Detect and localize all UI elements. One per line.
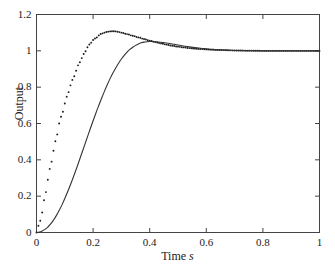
dotted-response-point	[56, 133, 58, 135]
y-tick-label-6: 1.2	[0, 9, 32, 20]
dotted-response-point	[181, 46, 183, 48]
dotted-response-point	[58, 123, 60, 125]
x-axis-label-text: Time	[161, 249, 186, 263]
dotted-response-point	[37, 225, 39, 227]
dotted-response-point	[51, 161, 53, 163]
dotted-response-point	[105, 31, 107, 33]
series-1	[37, 42, 320, 233]
x-tick-label-4: 0.8	[243, 237, 283, 248]
dotted-response-point	[171, 45, 173, 47]
dotted-response-point	[120, 32, 122, 34]
plot-canvas	[0, 0, 335, 270]
dotted-response-point	[45, 191, 47, 193]
dotted-response-point	[170, 45, 172, 47]
dotted-response-point	[113, 30, 115, 32]
dotted-response-point	[115, 30, 117, 32]
dotted-response-point	[139, 37, 141, 39]
dotted-response-point	[43, 199, 45, 201]
dotted-response-point	[39, 220, 41, 222]
dotted-response-point	[126, 33, 128, 35]
chart-figure: Output Time s 00.20.40.60.81 00.20.40.60…	[0, 0, 335, 270]
x-axis-unit: s	[189, 249, 194, 263]
x-tick-label-0: 0	[17, 237, 57, 248]
dotted-response-point	[137, 36, 139, 38]
dotted-response-point	[130, 34, 132, 36]
y-tick-label-2: 0.4	[0, 154, 32, 165]
series-0	[36, 30, 321, 233]
dotted-response-point	[54, 140, 56, 142]
dotted-response-point	[88, 44, 90, 46]
x-tick-label-2: 0.4	[130, 237, 170, 248]
dotted-response-point	[71, 79, 73, 81]
dotted-response-point	[41, 212, 43, 214]
data-series-layer	[36, 30, 321, 233]
dotted-response-point	[47, 179, 49, 181]
dotted-response-point	[75, 70, 77, 72]
x-axis-label: Time s	[36, 249, 319, 264]
dotted-response-point	[94, 38, 96, 40]
dotted-response-point	[145, 38, 147, 40]
dotted-response-point	[79, 61, 81, 63]
dotted-response-point	[111, 30, 113, 32]
dotted-response-point	[100, 33, 102, 35]
dotted-response-point	[186, 47, 188, 49]
dotted-response-point	[92, 39, 94, 41]
dotted-response-point	[66, 96, 68, 98]
y-tick-label-0: 0	[0, 227, 32, 238]
dotted-response-point	[177, 46, 179, 48]
y-tick-label-5: 1	[0, 45, 32, 56]
y-tick-label-4: 0.8	[0, 81, 32, 92]
x-tick-label-5: 1	[300, 237, 335, 248]
dotted-response-point	[60, 116, 62, 118]
dotted-response-point	[128, 34, 130, 36]
dotted-response-point	[83, 53, 85, 55]
dotted-response-point	[53, 150, 55, 152]
dotted-response-point	[86, 46, 88, 48]
dotted-response-point	[141, 38, 143, 40]
dotted-response-point	[62, 111, 64, 113]
dotted-response-point	[85, 50, 87, 52]
dotted-response-point	[183, 46, 185, 48]
x-tick-label-1: 0.2	[73, 237, 113, 248]
y-tick-label-1: 0.2	[0, 190, 32, 201]
dotted-response-point	[109, 30, 111, 32]
dotted-response-point	[64, 103, 66, 105]
dotted-response-point	[173, 45, 175, 47]
dotted-response-point	[143, 38, 145, 40]
dotted-response-point	[168, 44, 170, 46]
dotted-response-point	[164, 43, 166, 45]
dotted-response-point	[102, 32, 104, 34]
dotted-response-point	[136, 36, 138, 38]
solid-response-curve	[37, 42, 320, 233]
dotted-response-point	[117, 31, 119, 33]
dotted-response-point	[49, 168, 51, 170]
dotted-response-point	[68, 91, 70, 93]
dotted-response-point	[147, 39, 149, 41]
dotted-response-point	[175, 45, 177, 47]
dotted-response-point	[73, 75, 75, 77]
dotted-response-point	[90, 42, 92, 44]
x-tick-label-3: 0.6	[186, 237, 226, 248]
y-tick-label-3: 0.6	[0, 118, 32, 129]
dotted-response-point	[166, 44, 168, 46]
dotted-response-point	[119, 31, 121, 33]
dotted-response-point	[70, 84, 72, 86]
dotted-response-point	[96, 36, 98, 38]
dotted-response-point	[107, 31, 109, 33]
dotted-response-point	[122, 32, 124, 34]
dotted-response-point	[81, 57, 83, 59]
dotted-response-point	[134, 35, 136, 37]
dotted-response-point	[132, 35, 134, 37]
dotted-response-point	[77, 64, 79, 66]
dotted-response-point	[103, 32, 105, 34]
dotted-response-point	[179, 46, 181, 48]
dotted-response-point	[124, 33, 126, 35]
dotted-response-point	[98, 34, 100, 36]
